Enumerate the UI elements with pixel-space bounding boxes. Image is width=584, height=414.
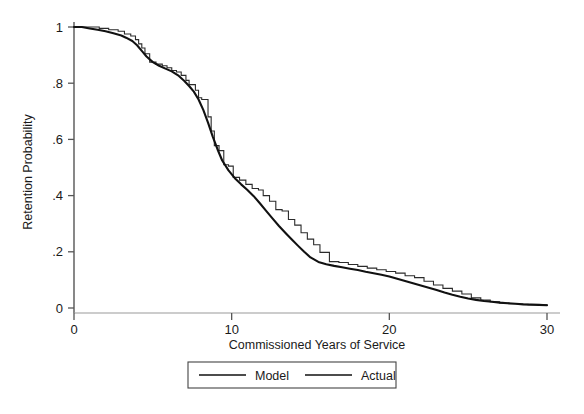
data-series-layer bbox=[74, 27, 547, 305]
y-tick-label: 1 bbox=[56, 20, 63, 35]
y-axis-title: Retention Probability bbox=[21, 114, 35, 230]
y-tick-group: 0.2.4.6.81 bbox=[52, 20, 74, 316]
y-tick-label: .6 bbox=[52, 132, 63, 147]
legend-label-actual: Actual bbox=[361, 369, 396, 383]
legend-label-model: Model bbox=[255, 369, 289, 383]
y-tick-label: .4 bbox=[52, 188, 63, 203]
chart-legend: Model Actual bbox=[188, 362, 396, 388]
retention-probability-chart: 0.2.4.6.81 0102030 Commissioned Years of… bbox=[0, 0, 584, 414]
axis-lines bbox=[74, 22, 560, 313]
y-tick-label: .2 bbox=[52, 244, 63, 259]
x-tick-label: 20 bbox=[382, 322, 396, 337]
x-tick-label: 30 bbox=[540, 322, 554, 337]
x-axis-title: Commissioned Years of Service bbox=[229, 338, 406, 352]
x-tick-group: 0102030 bbox=[70, 313, 554, 337]
y-tick-label: .8 bbox=[52, 76, 63, 91]
chart-page: 0.2.4.6.81 0102030 Commissioned Years of… bbox=[0, 0, 584, 414]
x-tick-label: 0 bbox=[70, 322, 77, 337]
series-line-actual bbox=[74, 27, 547, 305]
x-tick-label: 10 bbox=[224, 322, 238, 337]
series-line-model bbox=[74, 27, 547, 305]
y-tick-label: 0 bbox=[56, 301, 63, 316]
